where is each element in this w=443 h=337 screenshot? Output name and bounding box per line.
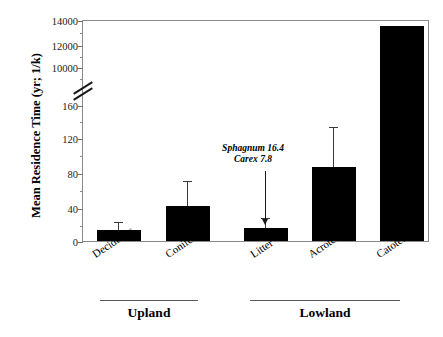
y-tick-major [78,46,83,47]
y-tick-label-160: 160 [62,101,78,112]
y-tick-label-120: 120 [62,134,78,145]
y-tick-minor [80,156,83,157]
y-tick-major [78,139,83,140]
y-tick-minor [80,122,83,123]
bar-catotelm [380,26,424,241]
group-underline-upland [100,300,198,301]
y-axis-title: Mean Residence Time (yr; 1/k) [29,36,44,236]
annotation-arrow-line [265,171,266,221]
annotation-line-1: Sphagnum 16.4 [198,143,308,154]
y-tick-minor [80,191,83,192]
group-label-lowland: Lowland [250,305,400,321]
error-bar-cap-deciduous [114,222,123,223]
y-tick-label-80: 80 [68,169,79,180]
axis-break-icon [73,87,93,100]
y-tick-major [78,209,83,210]
error-bar-acrotelm [333,128,334,167]
group-label-upland: Upland [100,305,198,321]
chart-figure: Mean Residence Time (yr; 1/k) 14000 1200… [0,0,443,337]
annotation-line-2: Carex 7.8 [198,154,308,165]
y-tick-major [78,106,83,107]
y-tick-minor [80,33,83,34]
y-tick-major [78,21,83,22]
y-tick-label-12000: 12000 [52,41,78,52]
annotation-arrow-icon [262,219,268,225]
y-tick-major [78,68,83,69]
y-tick-major [78,242,83,243]
y-tick-label-40: 40 [68,204,79,215]
plot-area: 14000 12000 10000 160 120 80 40 0 [82,20,429,242]
annotation-sphagnum-carex: Sphagnum 16.4 Carex 7.8 [198,143,308,165]
y-tick-major [78,174,83,175]
error-bar-cap-acrotelm [329,127,338,128]
y-tick-label-14000: 14000 [52,16,78,27]
error-bar-conifer [187,182,188,206]
y-tick-minor [80,79,83,80]
error-bar-cap-conifer [183,181,192,182]
y-tick-minor [80,226,83,227]
group-underline-lowland [250,300,400,301]
y-tick-label-10000: 10000 [52,63,78,74]
y-tick-minor [80,57,83,58]
